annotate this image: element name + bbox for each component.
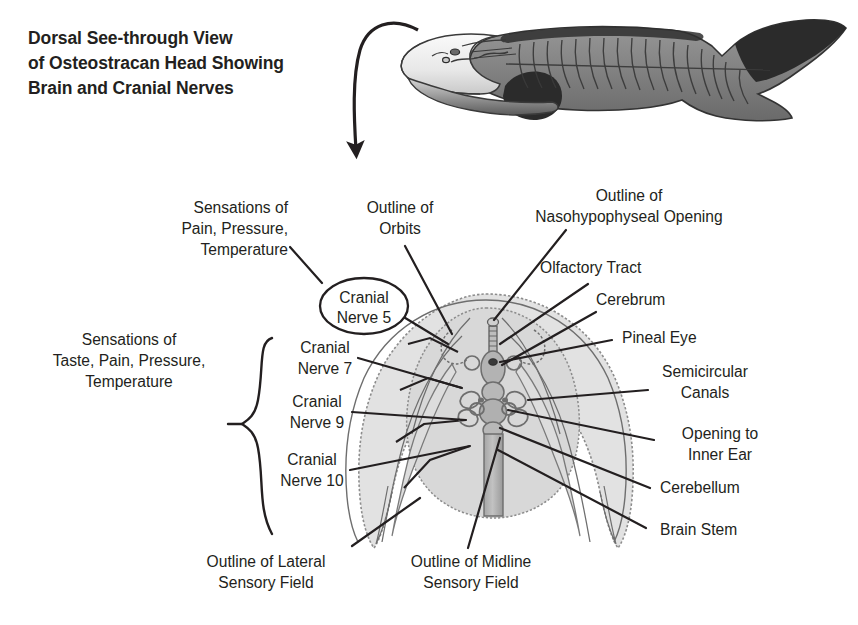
osteostracan-fish-illustration <box>354 20 846 150</box>
figure-root: Dorsal See-through View of Osteostracan … <box>0 0 858 625</box>
label-sensations-pain-pressure-temperature: Sensations of Pain, Pressure, Temperatur… <box>96 198 288 261</box>
curved-arrow <box>354 23 418 150</box>
label-outline-of-nasohypophyseal-opening: Outline of Nasohypophyseal Opening <box>500 186 758 228</box>
fish-nasohypophyseal-marking <box>443 57 450 62</box>
pineal-eye <box>489 359 497 365</box>
olfactory-tract <box>489 326 497 352</box>
label-olfactory-tract: Olfactory Tract <box>540 258 710 279</box>
label-outline-of-midline-sensory-field: Outline of Midline Sensory Field <box>366 552 576 594</box>
brain-stem <box>484 434 503 516</box>
label-semicircular-canals: Semicircular Canals <box>636 362 774 404</box>
sensations-group-brace <box>242 338 272 534</box>
label-cranial-nerve-9: Cranial Nerve 9 <box>272 392 362 434</box>
label-opening-to-inner-ear: Opening to Inner Ear <box>656 424 784 466</box>
label-cerebellum: Cerebellum <box>660 478 810 499</box>
label-cranial-nerve-10: Cranial Nerve 10 <box>262 450 362 492</box>
cerebrum <box>481 351 505 385</box>
label-sensations-taste-pain-pressure-temperature: Sensations of Taste, Pain, Pressure, Tem… <box>24 330 234 393</box>
label-cranial-nerve-5: Cranial Nerve 5 <box>320 288 408 328</box>
head-shield-diagram <box>346 294 633 548</box>
label-cerebrum: Cerebrum <box>596 290 726 311</box>
opening-to-inner-ear-left <box>478 397 484 402</box>
label-outline-of-lateral-sensory-field: Outline of Lateral Sensory Field <box>168 552 364 594</box>
label-pineal-eye: Pineal Eye <box>622 328 752 349</box>
fish-orbit-marking <box>450 49 459 55</box>
nasohypophyseal-opening <box>488 318 499 326</box>
label-outline-of-orbits: Outline of Orbits <box>338 198 462 240</box>
opening-to-inner-ear-right <box>502 397 508 402</box>
label-brain-stem: Brain Stem <box>660 520 810 541</box>
leader-sensations-pain <box>290 247 322 283</box>
label-cranial-nerve-7: Cranial Nerve 7 <box>280 338 370 380</box>
